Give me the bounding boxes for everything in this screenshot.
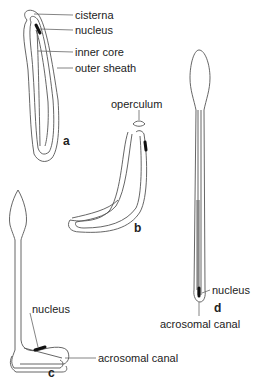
leader-line — [30, 313, 38, 347]
label-outer-sheath: outer sheath — [75, 62, 136, 74]
label-nucleus-d: nucleus — [212, 284, 250, 296]
label-inner-core: inner core — [75, 46, 124, 58]
panel-b-drawing — [68, 110, 146, 232]
label-nucleus-a: nucleus — [75, 24, 113, 36]
label-nucleus-c: nucleus — [32, 303, 70, 315]
label-acrosomal-canal-c: acrosomal canal — [98, 352, 178, 364]
label-cisterna: cisterna — [75, 9, 114, 21]
panel-a-drawing — [24, 10, 59, 161]
panel-label-c: c — [48, 366, 55, 380]
panel-label-b: b — [134, 221, 141, 235]
panel-d-drawing — [190, 50, 210, 316]
panel-label-a: a — [63, 134, 70, 148]
sperm-morphology-diagram: cisterna nucleus inner core outer sheath… — [0, 0, 260, 380]
panel-c-drawing — [9, 190, 68, 372]
label-operculum: operculum — [111, 98, 162, 110]
leader-line — [38, 51, 73, 52]
leader-line — [34, 14, 73, 15]
panel-label-d: d — [214, 301, 221, 315]
leader-line — [202, 290, 210, 293]
label-acrosomal-canal-d: acrosomal canal — [160, 318, 240, 330]
